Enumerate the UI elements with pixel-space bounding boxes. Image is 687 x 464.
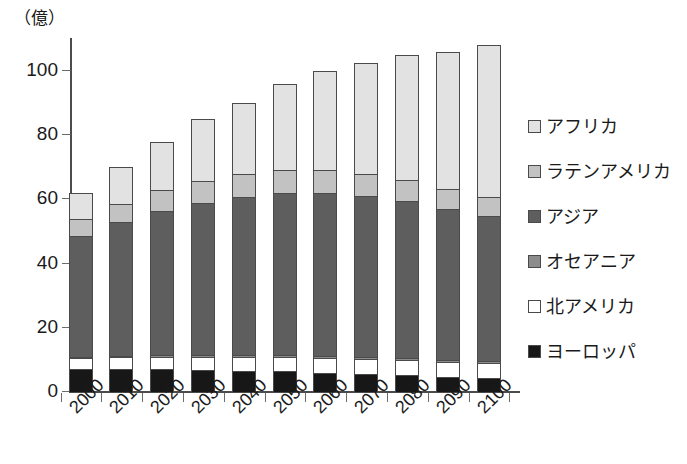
- bar-segment-2100-アジア: [477, 216, 501, 361]
- bar-2020: [150, 38, 174, 392]
- legend-swatch-icon: [528, 120, 541, 133]
- legend-swatch-icon: [528, 210, 541, 223]
- bar-segment-2070-アジア: [354, 196, 378, 358]
- y-axis-tick-label: 100: [2, 60, 58, 79]
- bar-2040: [232, 38, 256, 392]
- bar-segment-2060-北アメリカ: [313, 358, 337, 373]
- y-axis-tick-label: 40: [2, 253, 58, 272]
- legend-item-アジア[interactable]: アジア: [528, 194, 686, 239]
- bar-segment-2060-アジア: [313, 193, 337, 357]
- bar-segment-2050-ラテンアメリカ: [273, 170, 297, 194]
- y-axis-tick-label: 60: [2, 188, 58, 207]
- bar-2070: [354, 38, 378, 392]
- bar-segment-2020-アジア: [150, 211, 174, 357]
- bar-segment-2100-アフリカ: [477, 45, 501, 198]
- bar-segment-2040-アフリカ: [232, 103, 256, 175]
- y-axis-tick-label: 0: [2, 381, 58, 400]
- bar-2000: [69, 38, 93, 392]
- bar-segment-2040-北アメリカ: [232, 357, 256, 371]
- legend-label: ヨーロッパ: [546, 343, 636, 361]
- bar-2010: [109, 38, 133, 392]
- bar-segment-2030-ラテンアメリカ: [191, 181, 215, 204]
- bar-segment-2080-アフリカ: [395, 55, 419, 181]
- plot-area: [71, 38, 520, 392]
- bar-segment-2020-ラテンアメリカ: [150, 190, 174, 212]
- bar-segment-2080-アジア: [395, 201, 419, 359]
- bar-segment-2040-アジア: [232, 197, 256, 357]
- legend-swatch-icon: [528, 345, 541, 358]
- bar-segment-2090-アフリカ: [436, 52, 460, 190]
- legend-item-アフリカ[interactable]: アフリカ: [528, 104, 686, 149]
- legend-swatch-icon: [528, 255, 541, 268]
- legend-label: ラテンアメリカ: [546, 163, 671, 181]
- bar-segment-2010-北アメリカ: [109, 357, 133, 369]
- bar-segment-2030-アフリカ: [191, 119, 215, 182]
- stacked-bar-chart: （億） 020406080100 20002010202020302040205…: [0, 0, 687, 464]
- x-axis-tick: [61, 393, 62, 402]
- bar-segment-2070-ラテンアメリカ: [354, 174, 378, 197]
- bar-2030: [191, 38, 215, 392]
- bar-segment-2080-北アメリカ: [395, 360, 419, 376]
- bar-segment-2090-アジア: [436, 209, 460, 361]
- bar-segment-2020-北アメリカ: [150, 357, 174, 370]
- chart-legend: アフリカラテンアメリカアジアオセアニア北アメリカヨーロッパ: [528, 104, 686, 374]
- bar-segment-2050-北アメリカ: [273, 357, 297, 372]
- legend-label: オセアニア: [546, 253, 636, 271]
- bar-segment-2030-北アメリカ: [191, 357, 215, 371]
- bar-2050: [273, 38, 297, 392]
- bar-segment-2050-アフリカ: [273, 84, 297, 171]
- legend-item-ヨーロッパ[interactable]: ヨーロッパ: [528, 329, 686, 374]
- legend-label: アフリカ: [546, 118, 618, 136]
- bar-segment-2010-アフリカ: [109, 167, 133, 204]
- bar-segment-2010-アジア: [109, 222, 133, 357]
- y-axis-tick-label: 20: [2, 317, 58, 336]
- bar-segment-2060-ラテンアメリカ: [313, 170, 337, 194]
- bar-segment-2000-ラテンアメリカ: [69, 219, 93, 237]
- legend-swatch-icon: [528, 300, 541, 313]
- bar-segment-2000-北アメリカ: [69, 358, 93, 369]
- bar-2080: [395, 38, 419, 392]
- bar-2100: [477, 38, 501, 392]
- y-axis-unit-label: （億）: [14, 4, 65, 29]
- bar-segment-2090-北アメリカ: [436, 362, 460, 378]
- bar-segment-2060-アフリカ: [313, 71, 337, 171]
- legend-item-オセアニア[interactable]: オセアニア: [528, 239, 686, 284]
- legend-swatch-icon: [528, 165, 541, 178]
- y-axis-tick-label: 80: [2, 124, 58, 143]
- legend-item-ラテンアメリカ[interactable]: ラテンアメリカ: [528, 149, 686, 194]
- bar-segment-2000-アフリカ: [69, 193, 93, 220]
- bar-segment-2100-ラテンアメリカ: [477, 197, 501, 217]
- bar-2090: [436, 38, 460, 392]
- bar-segment-2090-ラテンアメリカ: [436, 189, 460, 210]
- bar-2060: [313, 38, 337, 392]
- bar-segment-2000-アジア: [69, 236, 93, 359]
- legend-label: アジア: [546, 208, 599, 226]
- legend-label: 北アメリカ: [546, 298, 635, 316]
- bar-segment-2030-アジア: [191, 203, 215, 356]
- bar-segment-2050-アジア: [273, 193, 297, 357]
- bar-segment-2040-ラテンアメリカ: [232, 174, 256, 198]
- bar-segment-2070-北アメリカ: [354, 359, 378, 375]
- bar-segment-2020-アフリカ: [150, 142, 174, 191]
- legend-item-北アメリカ[interactable]: 北アメリカ: [528, 284, 686, 329]
- bar-segment-2100-北アメリカ: [477, 363, 501, 379]
- bar-segment-2080-ラテンアメリカ: [395, 180, 419, 203]
- bar-segment-2010-ラテンアメリカ: [109, 204, 133, 224]
- bar-segment-2070-アフリカ: [354, 63, 378, 175]
